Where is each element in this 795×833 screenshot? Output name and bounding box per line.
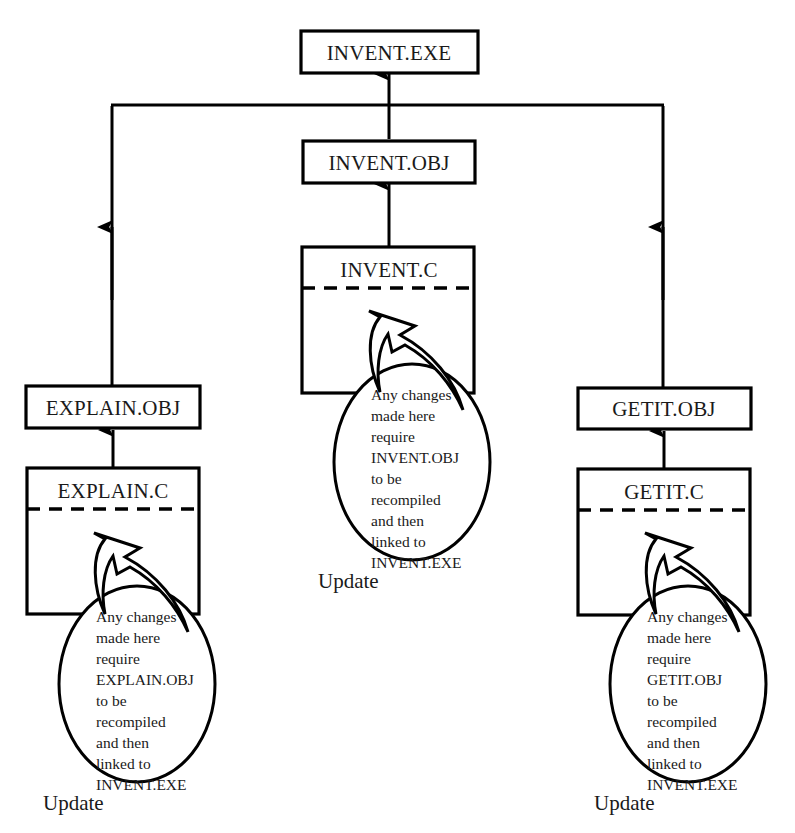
callout-invent-line-2: require: [371, 428, 415, 445]
dependency-diagram: INVENT.EXE INVENT.OBJ INVENT.C EXPLAIN.O…: [0, 0, 795, 833]
callout-invent-line-6: and then: [371, 512, 424, 529]
node-explain-c-label: EXPLAIN.C: [58, 479, 169, 503]
callout-getit-update-label: Update: [594, 791, 655, 815]
diagram-canvas: INVENT.EXE INVENT.OBJ INVENT.C EXPLAIN.O…: [0, 0, 795, 833]
callout-getit-line-8: INVENT.EXE: [647, 776, 738, 793]
callout-explain-line-8: INVENT.EXE: [96, 776, 187, 793]
node-invent-exe-label: INVENT.EXE: [327, 41, 452, 65]
callout-getit-line-6: and then: [647, 734, 700, 751]
node-getit-c-label: GETIT.C: [624, 480, 704, 504]
callout-explain-line-0: Any changes: [96, 608, 177, 625]
callout-getit-line-2: require: [647, 650, 691, 667]
callout-getit-line-3: GETIT.OBJ: [647, 671, 722, 688]
callout-getit-line-5: recompiled: [647, 713, 717, 730]
node-invent-obj-label: INVENT.OBJ: [328, 151, 449, 175]
node-invent-obj[interactable]: INVENT.OBJ: [303, 141, 475, 183]
callout-explain-line-6: and then: [96, 734, 149, 751]
callout-getit-line-7: linked to: [647, 755, 702, 772]
callout-invent-line-4: to be: [371, 470, 402, 487]
callout-invent-update-label: Update: [318, 569, 379, 593]
callout-getit-line-0: Any changes: [647, 608, 728, 625]
callout-explain-line-3: EXPLAIN.OBJ: [96, 671, 194, 688]
callout-explain-line-2: require: [96, 650, 140, 667]
callout-invent-line-5: recompiled: [371, 491, 441, 508]
callout-explain-line-7: linked to: [96, 755, 151, 772]
callout-invent-line-7: linked to: [371, 533, 426, 550]
node-getit-obj[interactable]: GETIT.OBJ: [578, 388, 751, 429]
node-explain-obj-label: EXPLAIN.OBJ: [46, 396, 181, 420]
callout-explain-line-4: to be: [96, 692, 127, 709]
callout-explain-line-5: recompiled: [96, 713, 166, 730]
callout-invent-line-0: Any changes: [371, 386, 452, 403]
callout-getit-line-1: made here: [647, 629, 711, 646]
node-invent-c-label: INVENT.C: [340, 258, 437, 282]
node-getit-obj-label: GETIT.OBJ: [612, 397, 715, 421]
callout-invent-line-3: INVENT.OBJ: [371, 449, 459, 466]
node-explain-obj[interactable]: EXPLAIN.OBJ: [26, 386, 200, 428]
callout-invent-line-1: made here: [371, 407, 435, 424]
callout-getit-line-4: to be: [647, 692, 678, 709]
callout-explain-line-1: made here: [96, 629, 160, 646]
callout-invent-line-8: INVENT.EXE: [371, 554, 462, 571]
callout-explain-update-label: Update: [43, 791, 104, 815]
node-invent-exe[interactable]: INVENT.EXE: [301, 31, 478, 73]
